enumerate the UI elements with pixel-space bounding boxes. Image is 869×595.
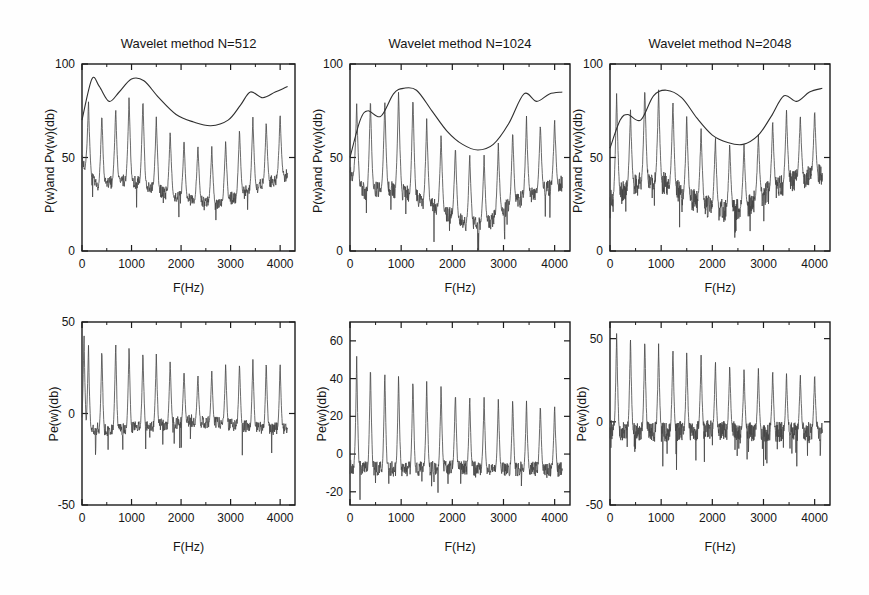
- subplot-pw-n2048: Wavelet method N=2048 P(w)and Pv(w)(db) …: [548, 30, 860, 312]
- x-axis-label: F(Hz): [82, 281, 295, 295]
- plot-title: Wavelet method N=512: [82, 36, 295, 51]
- y-tick-label: 100: [323, 57, 343, 71]
- x-tick-label: 1000: [118, 511, 145, 525]
- x-tick-label: 2000: [699, 511, 726, 525]
- series-envelope: [350, 88, 562, 158]
- x-tick-label: 2000: [168, 511, 195, 525]
- series-pe(w): [610, 334, 822, 470]
- x-tick-label: 3000: [490, 257, 517, 271]
- x-tick-label: 1000: [388, 511, 415, 525]
- y-tick-label: 50: [330, 151, 344, 165]
- series-pe(w): [82, 336, 288, 455]
- wavelet-comparison-figure: Wavelet method N=512 P(w)and Pv(w)(db) 0…: [0, 0, 869, 595]
- x-tick-label: 2000: [168, 257, 195, 271]
- series-p(w): [82, 98, 288, 220]
- axes-box: [350, 322, 570, 505]
- series-envelope: [610, 88, 822, 148]
- x-axis-label: F(Hz): [350, 281, 570, 295]
- x-tick-label: 0: [607, 511, 614, 525]
- x-tick-label: 0: [347, 257, 354, 271]
- x-tick-label: 3000: [490, 511, 517, 525]
- x-tick-label: 2000: [439, 511, 466, 525]
- x-tick-label: 1000: [648, 511, 675, 525]
- x-tick-label: 4000: [801, 511, 828, 525]
- series-pe(w): [350, 356, 562, 500]
- plot-canvas: 01000200030004000050100: [20, 60, 325, 275]
- x-tick-label: 0: [79, 511, 86, 525]
- x-axis-label: F(Hz): [610, 540, 830, 554]
- y-tick-label: 0: [596, 244, 603, 258]
- y-tick-label: 40: [330, 372, 344, 386]
- x-tick-label: 1000: [648, 257, 675, 271]
- x-tick-label: 0: [347, 511, 354, 525]
- y-tick-label: -50: [58, 498, 76, 512]
- y-tick-label: 60: [330, 334, 344, 348]
- x-tick-label: 2000: [699, 257, 726, 271]
- y-tick-label: -50: [586, 498, 604, 512]
- y-tick-label: 100: [55, 57, 75, 71]
- y-tick-label: 0: [336, 244, 343, 258]
- y-tick-label: 50: [590, 151, 604, 165]
- x-tick-label: 3000: [217, 511, 244, 525]
- plot-canvas: 01000200030004000-50050: [548, 318, 860, 529]
- y-tick-label: -20: [326, 485, 344, 499]
- y-tick-label: 50: [590, 332, 604, 346]
- x-tick-label: 1000: [118, 257, 145, 271]
- plot-title: Wavelet method N=1024: [350, 36, 570, 51]
- x-axis-label: F(Hz): [610, 281, 830, 295]
- x-tick-label: 0: [79, 257, 86, 271]
- y-tick-label: 50: [62, 315, 76, 329]
- x-tick-label: 4000: [801, 257, 828, 271]
- series-p(w): [610, 90, 822, 238]
- subplot-pe-n512: Pe(w)(db) 01000200030004000-50050 F(Hz): [20, 318, 325, 568]
- y-tick-label: 100: [583, 57, 603, 71]
- x-tick-label: 2000: [439, 257, 466, 271]
- series-envelope: [82, 77, 288, 125]
- x-axis-label: F(Hz): [82, 540, 295, 554]
- x-tick-label: 3000: [217, 257, 244, 271]
- x-axis-label: F(Hz): [350, 540, 570, 554]
- subplot-pe-n2048: Pe(w)(db) 01000200030004000-50050 F(Hz): [548, 318, 860, 568]
- x-tick-label: 0: [607, 257, 614, 271]
- y-tick-label: 0: [596, 415, 603, 429]
- y-tick-label: 50: [62, 151, 76, 165]
- plot-canvas: 01000200030004000-50050: [20, 318, 325, 529]
- y-tick-label: 20: [330, 409, 344, 423]
- y-tick-label: 0: [336, 447, 343, 461]
- subplot-pw-n512: Wavelet method N=512 P(w)and Pv(w)(db) 0…: [20, 30, 325, 312]
- x-tick-label: 3000: [750, 511, 777, 525]
- y-tick-label: 0: [68, 244, 75, 258]
- plot-canvas: 01000200030004000050100: [548, 60, 860, 275]
- x-tick-label: 3000: [750, 257, 777, 271]
- x-tick-label: 1000: [388, 257, 415, 271]
- y-tick-label: 0: [68, 407, 75, 421]
- plot-title: Wavelet method N=2048: [610, 36, 830, 51]
